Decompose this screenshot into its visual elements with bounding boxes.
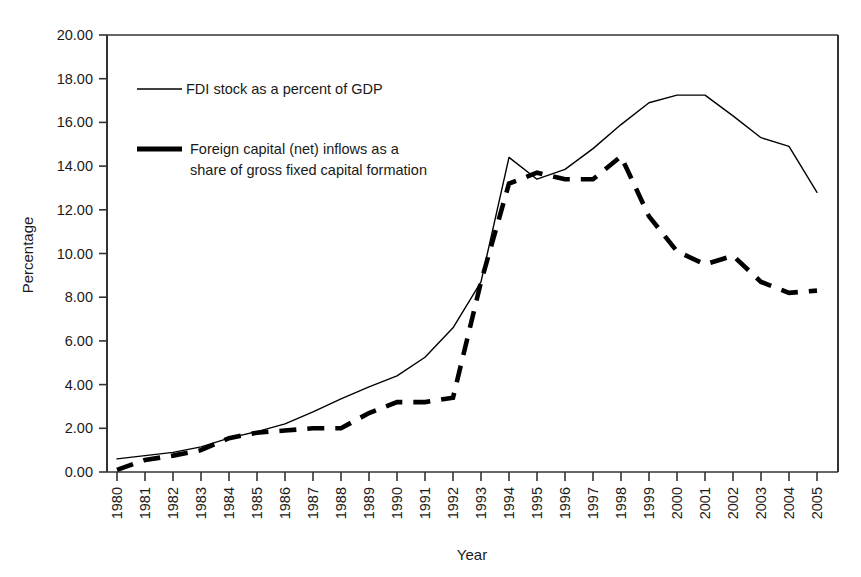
y-axis-tick-label: 12.00	[57, 202, 93, 218]
y-axis-tick-label: 4.00	[65, 377, 93, 393]
y-axis-tick-label: 14.00	[57, 158, 93, 174]
x-axis-tick-label: 1980	[109, 487, 125, 519]
x-axis-tick-label: 1993	[473, 487, 489, 519]
y-axis-tick-label: 18.00	[57, 71, 93, 87]
x-axis-tick-label: 1987	[305, 487, 321, 519]
x-axis-tick-label: 1991	[417, 487, 433, 519]
y-axis-tick-label: 8.00	[65, 289, 93, 305]
y-axis-title: Percentage	[19, 217, 36, 294]
y-axis-tick-label: 2.00	[65, 420, 93, 436]
plot-frame	[107, 35, 838, 472]
x-axis-tick-label: 1990	[389, 487, 405, 519]
y-axis-tick-label: 10.00	[57, 246, 93, 262]
x-axis-tick-label: 1998	[613, 487, 629, 519]
x-axis-tick-labels: 1980198119821983198419851986198719881989…	[109, 487, 825, 519]
x-axis-tick-label: 2004	[781, 487, 797, 519]
y-axis-tick-label: 16.00	[57, 114, 93, 130]
x-axis-tick-label: 2005	[809, 487, 825, 519]
y-axis-tick-label: 6.00	[65, 333, 93, 349]
x-axis-tick-label: 2001	[697, 487, 713, 519]
legend-label-foreign-capital-line1: Foreign capital (net) inflows as a	[190, 141, 400, 157]
x-axis-ticks	[117, 472, 817, 481]
legend-label-fdi-stock: FDI stock as a percent of GDP	[186, 81, 383, 97]
x-axis-tick-label: 1996	[557, 487, 573, 519]
y-axis-tick-label: 0.00	[65, 464, 93, 480]
chart-legend: FDI stock as a percent of GDP Foreign ca…	[137, 81, 427, 178]
series-line-foreign-capital-inflows	[117, 156, 817, 470]
x-axis-tick-label: 1986	[277, 487, 293, 519]
x-axis-tick-label: 1992	[445, 487, 461, 519]
x-axis-tick-label: 1981	[137, 487, 153, 519]
x-axis-tick-label: 2002	[725, 487, 741, 519]
x-axis-tick-label: 1997	[585, 487, 601, 519]
line-chart: 0.002.004.006.008.0010.0012.0014.0016.00…	[0, 0, 861, 577]
x-axis-tick-label: 2003	[753, 487, 769, 519]
x-axis-tick-label: 1984	[221, 487, 237, 519]
x-axis-tick-label: 1994	[501, 487, 517, 519]
x-axis-tick-label: 1999	[641, 487, 657, 519]
y-axis-tick-labels: 0.002.004.006.008.0010.0012.0014.0016.00…	[57, 27, 93, 480]
x-axis-tick-label: 2000	[669, 487, 685, 519]
x-axis-tick-label: 1982	[165, 487, 181, 519]
y-axis-ticks	[99, 35, 107, 472]
chart-container: 0.002.004.006.008.0010.0012.0014.0016.00…	[0, 0, 861, 577]
y-axis-tick-label: 20.00	[57, 27, 93, 43]
x-axis-title: Year	[457, 546, 487, 563]
legend-label-foreign-capital-line2: share of gross fixed capital formation	[190, 162, 427, 178]
x-axis-tick-label: 1985	[249, 487, 265, 519]
x-axis-tick-label: 1983	[193, 487, 209, 519]
x-axis-tick-label: 1988	[333, 487, 349, 519]
x-axis-tick-label: 1995	[529, 487, 545, 519]
x-axis-tick-label: 1989	[361, 487, 377, 519]
